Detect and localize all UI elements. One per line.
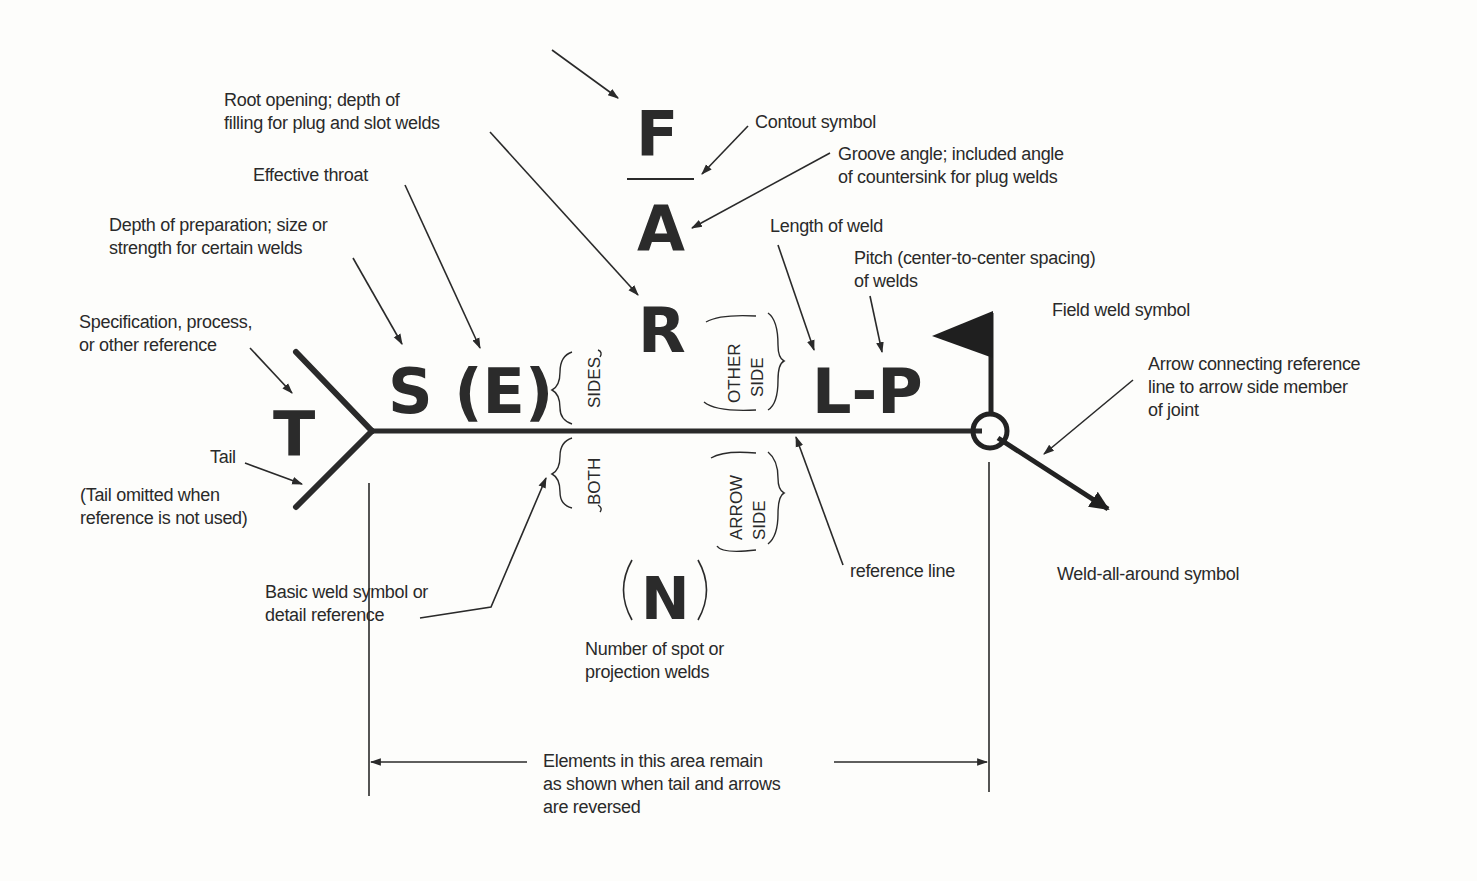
annotation-length-of-weld: Length of weld	[770, 216, 883, 236]
annotation-depth-preparation: Depth of preparation; size or strength f…	[109, 215, 332, 258]
leader-top-F	[552, 50, 618, 98]
brace-both-cap	[598, 505, 601, 512]
brace-both	[552, 438, 572, 508]
annotation-effective-throat: Effective throat	[253, 165, 368, 185]
letters-L-P: L-P	[812, 355, 923, 428]
leader-arrow-connect	[1044, 380, 1133, 454]
brace-other-right	[768, 313, 784, 410]
brace-arrow-bottom	[717, 546, 756, 551]
letter-N: N	[641, 565, 690, 633]
brace-arrow-top	[711, 452, 756, 458]
letter-F: F	[636, 97, 678, 170]
leader-pitch	[870, 296, 882, 352]
brace-arrow-right	[768, 452, 784, 544]
annotation-arrow-connecting: Arrow connecting reference line to arrow…	[1148, 354, 1365, 420]
arrow-line	[998, 438, 1108, 509]
letter-A: A	[637, 192, 685, 265]
letter-T: T	[273, 398, 315, 471]
leader-reference-line	[796, 437, 843, 565]
brace-label-sides: SIDES	[585, 357, 604, 408]
annotation-root-opening: Root opening; depth of filling for plug …	[224, 90, 440, 133]
N-paren-left	[624, 560, 633, 620]
leader-root	[490, 132, 638, 295]
leader-contour	[702, 126, 748, 174]
welding-symbol-diagram: F A R S (E) T L-P N SIDES BOTH OTHER SID…	[0, 0, 1477, 881]
leader-depth	[353, 258, 402, 344]
annotation-contour-symbol: Contout symbol	[755, 112, 876, 132]
brace-label-both: BOTH	[585, 458, 604, 505]
brace-sides-cap	[598, 350, 601, 357]
leader-basic-weld	[420, 478, 546, 618]
annotation-weld-all-around: Weld-all-around symbol	[1057, 564, 1239, 584]
annotation-tail: Tail	[210, 447, 236, 467]
brace-label-arrow-side: SIDE	[750, 500, 769, 540]
annotation-groove-angle: Groove angle; included angle of counters…	[838, 144, 1068, 187]
leader-spec	[250, 348, 292, 393]
letters-S-E: S (E)	[388, 355, 553, 428]
N-paren-right	[698, 560, 707, 620]
annotation-elements-area: Elements in this area remain as shown wh…	[543, 751, 785, 817]
annotation-number-spot: Number of spot or projection welds	[585, 639, 729, 682]
brace-label-arrow: ARROW	[727, 475, 746, 540]
annotation-basic-weld: Basic weld symbol or detail reference	[265, 582, 433, 625]
annotation-field-weld: Field weld symbol	[1052, 300, 1190, 320]
letter-R: R	[638, 294, 686, 367]
annotation-pitch: Pitch (center-to-center spacing) of weld…	[854, 248, 1100, 291]
leader-throat	[405, 185, 480, 348]
brace-sides	[552, 352, 572, 424]
leader-length	[778, 245, 814, 350]
brace-label-other: OTHER	[725, 344, 744, 404]
brace-label-other-side: SIDE	[748, 357, 767, 397]
annotation-specification: Specification, process, or other referen…	[79, 312, 257, 355]
field-weld-flag-icon	[932, 311, 993, 358]
annotation-reference-line: reference line	[850, 561, 955, 581]
annotation-tail-omitted: (Tail omitted when reference is not used…	[80, 485, 248, 528]
brace-other-top	[706, 316, 756, 322]
